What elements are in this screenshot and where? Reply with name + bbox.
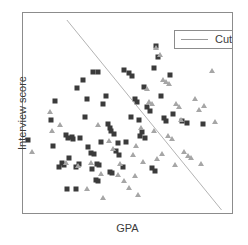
data-point-square [84, 97, 89, 102]
data-point-triangle [117, 161, 123, 166]
data-point-triangle [57, 122, 63, 127]
data-point-triangle [149, 101, 155, 106]
data-point-triangle [176, 104, 182, 109]
data-point-triangle [153, 45, 159, 50]
data-point-square [117, 153, 122, 158]
data-point-square [82, 115, 87, 120]
data-point-triangle [130, 152, 136, 157]
data-point-square [75, 86, 80, 91]
data-point-square [185, 121, 190, 126]
data-point-square [171, 112, 176, 117]
data-point-triangle [98, 171, 104, 176]
data-point-triangle [188, 155, 194, 160]
data-point-square [101, 102, 106, 107]
data-point-square [97, 163, 102, 168]
data-point-triangle [63, 160, 69, 165]
plot-area: Cutoff [22, 12, 233, 214]
legend-item-label: Cutoff [215, 34, 233, 45]
cutoff-legend-line-icon [181, 39, 208, 40]
data-point-square [116, 141, 121, 146]
data-point-triangle [151, 128, 157, 133]
data-point-square [89, 167, 94, 172]
data-point-triangle [88, 160, 94, 165]
data-point-square [96, 70, 101, 75]
data-point-square [49, 118, 54, 123]
data-point-square [151, 66, 156, 71]
data-point-triangle [178, 117, 184, 122]
data-point-triangle [106, 138, 112, 143]
data-point-square [92, 152, 97, 157]
data-point-triangle [166, 81, 172, 86]
data-point-square [129, 74, 134, 79]
data-point-square [71, 137, 76, 142]
data-point-triangle [192, 96, 198, 101]
data-point-square [148, 109, 153, 114]
data-point-square [80, 78, 85, 83]
data-point-triangle [29, 149, 35, 154]
data-point-triangle [157, 52, 163, 57]
data-point-triangle [138, 125, 144, 130]
data-point-triangle [133, 143, 139, 148]
data-point-square [158, 94, 163, 99]
data-point-square [103, 94, 108, 99]
data-point-square [152, 169, 157, 174]
data-point-triangle [144, 86, 150, 91]
data-point-triangle [84, 186, 90, 191]
data-point-square [136, 118, 141, 123]
data-point-square [128, 115, 133, 120]
data-point-square [164, 119, 169, 124]
data-point-triangle [212, 119, 218, 124]
data-point-square [99, 140, 104, 145]
data-point-square [85, 145, 90, 150]
data-point-square [168, 73, 173, 78]
data-point-triangle [47, 109, 53, 114]
data-point-square [56, 165, 61, 170]
data-point-triangle [209, 68, 215, 73]
legend: Cutoff [174, 30, 233, 49]
data-point-square [78, 136, 83, 141]
data-point-triangle [135, 192, 141, 197]
data-point-square [64, 187, 69, 192]
data-point-triangle [132, 173, 138, 178]
data-point-triangle [49, 128, 55, 133]
scatter-chart-figure: Cutoff GPA Interview score [0, 0, 248, 245]
data-point-square [53, 99, 58, 104]
data-point-triangle [126, 185, 132, 190]
data-point-triangle [154, 156, 160, 161]
data-point-triangle [201, 103, 207, 108]
data-point-triangle [110, 146, 116, 151]
data-point-square [109, 171, 114, 176]
data-point-triangle [121, 178, 127, 183]
data-point-triangle [169, 136, 175, 141]
data-point-triangle [115, 172, 121, 177]
data-point-triangle [172, 162, 178, 167]
data-point-square [51, 144, 56, 149]
data-point-square [134, 100, 139, 105]
data-point-triangle [95, 122, 101, 127]
x-axis-label: GPA [22, 222, 233, 234]
data-point-triangle [159, 151, 165, 156]
data-point-square [200, 122, 205, 127]
data-point-square [143, 136, 148, 141]
data-point-square [74, 187, 79, 192]
data-point-square [96, 179, 101, 184]
data-point-triangle [100, 195, 106, 200]
y-axis-label: Interview score [16, 12, 30, 214]
data-point-triangle [75, 163, 81, 168]
data-point-triangle [198, 161, 204, 166]
data-point-triangle [140, 159, 146, 164]
data-point-square [111, 132, 116, 137]
data-point-square [124, 140, 129, 145]
